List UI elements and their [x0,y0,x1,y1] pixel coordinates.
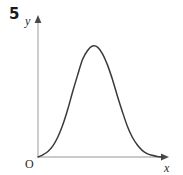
figure-container: 5 y x O [0,0,183,175]
x-axis-label: x [163,161,170,175]
origin-label: O [25,157,34,171]
bell-curve-path [38,46,162,157]
y-axis-label: y [24,14,31,28]
y-axis-arrowhead-icon [35,15,42,23]
plot-area: y x O [0,0,183,175]
